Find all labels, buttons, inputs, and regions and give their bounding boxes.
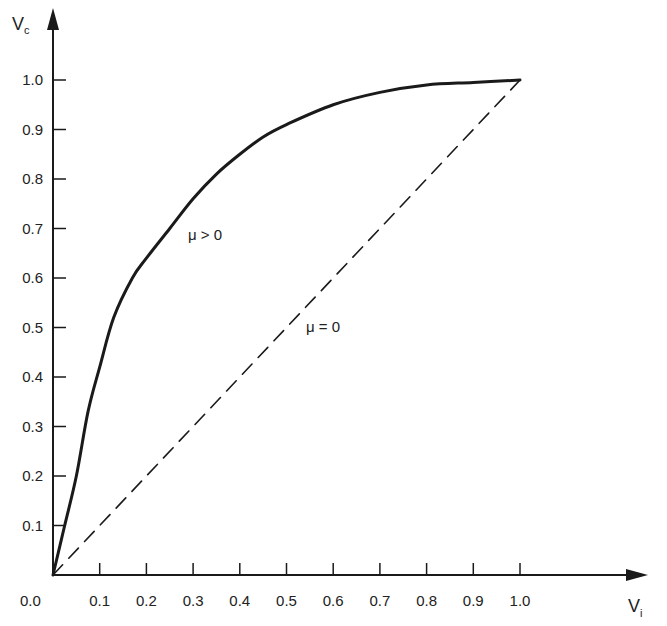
labels: Vc Vi μ > 0 μ = 0 — [12, 14, 642, 619]
y-tick-label: 0.1 — [22, 517, 43, 534]
x-tick-label: 0.0 — [20, 592, 41, 609]
x-tick-label: 0.3 — [183, 592, 204, 609]
x-axis-title: Vi — [628, 596, 642, 619]
x-tick-label: 0.5 — [276, 592, 297, 609]
x-tick-label: 0.1 — [89, 592, 110, 609]
x-tick-label: 0.7 — [369, 592, 390, 609]
x-axis-arrow-icon — [626, 569, 648, 581]
x-ticks: 0.00.10.20.30.40.50.60.70.80.91.0 — [20, 563, 530, 609]
x-tick-label: 0.9 — [463, 592, 484, 609]
y-tick-label: 0.5 — [22, 319, 43, 336]
x-tick-label: 0.2 — [136, 592, 157, 609]
x-tick-label: 0.8 — [416, 592, 437, 609]
annotation-mu-positive: μ > 0 — [188, 226, 222, 243]
y-tick-label: 0.6 — [22, 269, 43, 286]
series — [53, 80, 520, 575]
axes — [47, 8, 648, 581]
y-tick-label: 0.2 — [22, 467, 43, 484]
y-tick-label: 1.0 — [22, 71, 43, 88]
y-ticks: 0.10.20.30.40.50.60.70.80.91.0 — [22, 71, 66, 534]
y-tick-label: 0.7 — [22, 220, 43, 237]
y-tick-label: 0.4 — [22, 368, 43, 385]
x-tick-label: 1.0 — [510, 592, 531, 609]
x-tick-label: 0.4 — [229, 592, 250, 609]
series-mu-zero-line — [53, 80, 520, 575]
y-axis-arrow-icon — [47, 8, 59, 30]
y-tick-label: 0.9 — [22, 121, 43, 138]
y-axis-title: Vc — [12, 14, 30, 36]
chart: 0.00.10.20.30.40.50.60.70.80.91.0 0.10.2… — [0, 0, 667, 626]
annotation-mu-zero: μ = 0 — [306, 318, 340, 335]
y-tick-label: 0.3 — [22, 418, 43, 435]
x-tick-label: 0.6 — [323, 592, 344, 609]
y-tick-label: 0.8 — [22, 170, 43, 187]
